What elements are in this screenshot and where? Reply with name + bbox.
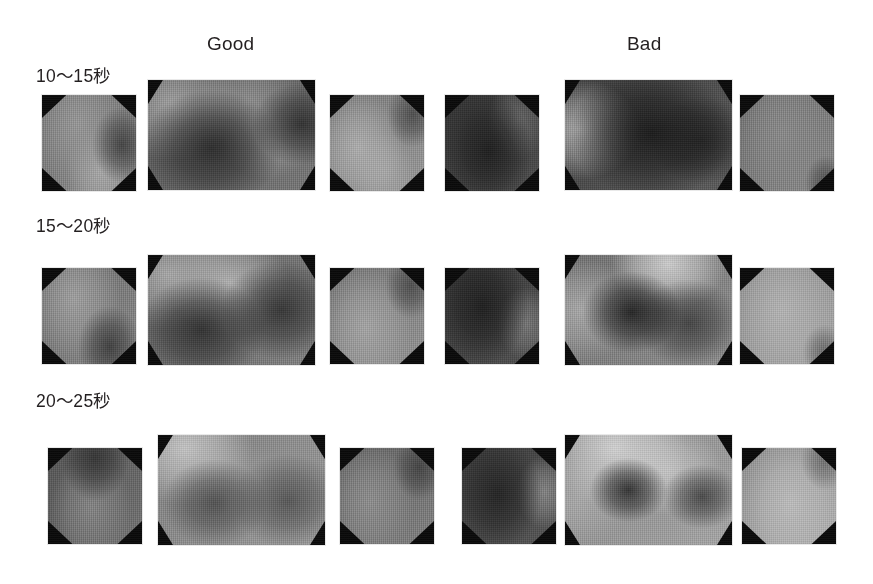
column-header-bad: Bad	[627, 33, 661, 55]
column-header-good: Good	[207, 33, 254, 55]
row-label-20-25: 20〜25秒	[36, 387, 111, 412]
heatmap-field	[340, 448, 434, 544]
heatmap-panel	[565, 435, 732, 545]
heatmap-field	[565, 80, 732, 190]
heatmap-panel	[48, 448, 142, 544]
figure-root: Good Bad 10〜15秒 15〜20秒 20〜25秒	[0, 0, 873, 584]
heatmap-panel	[445, 95, 539, 191]
heatmap-panel	[742, 448, 836, 544]
heatmap-panel	[158, 435, 325, 545]
heatmap-field	[565, 255, 732, 365]
heatmap-field	[565, 435, 732, 545]
heatmap-field	[742, 448, 836, 544]
heatmap-panel	[330, 268, 424, 364]
heatmap-field	[48, 448, 142, 544]
heatmap-panel	[740, 95, 834, 191]
heatmap-field	[740, 95, 834, 191]
heatmap-panel	[148, 255, 315, 365]
heatmap-field	[148, 255, 315, 365]
heatmap-panel	[740, 268, 834, 364]
heatmap-panel	[445, 268, 539, 364]
heatmap-field	[445, 95, 539, 191]
heatmap-field	[42, 268, 136, 364]
heatmap-panel	[148, 80, 315, 190]
heatmap-panel	[565, 255, 732, 365]
heatmap-panel	[42, 95, 136, 191]
heatmap-panel	[565, 80, 732, 190]
heatmap-field	[462, 448, 556, 544]
heatmap-panel	[462, 448, 556, 544]
heatmap-field	[445, 268, 539, 364]
heatmap-field	[740, 268, 834, 364]
heatmap-field	[330, 268, 424, 364]
heatmap-field	[158, 435, 325, 545]
heatmap-field	[148, 80, 315, 190]
heatmap-panel	[340, 448, 434, 544]
row-label-15-20: 15〜20秒	[36, 212, 111, 237]
heatmap-field	[330, 95, 424, 191]
heatmap-field	[42, 95, 136, 191]
heatmap-panel	[330, 95, 424, 191]
row-label-10-15: 10〜15秒	[36, 62, 111, 87]
heatmap-panel	[42, 268, 136, 364]
